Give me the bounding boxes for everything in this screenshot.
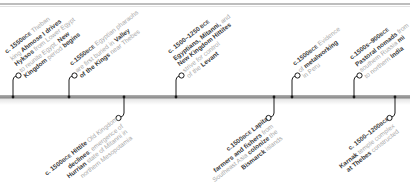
- event-connector: [122, 97, 142, 127]
- event-label: c. 1500–1250 BCEEgyptians, Mitanni, andN…: [166, 5, 246, 79]
- event-label: c. 1500BCE Hittite Old Kingdomdeclines; …: [43, 115, 134, 192]
- event-label: c.1500BCE Lapitafarmers and fishers from…: [201, 115, 284, 189]
- timeline-bar-shadow: [0, 99, 410, 105]
- event-label: c.1550BCE Egyptian pharaohsare first bur…: [68, 8, 150, 79]
- event-label: c.1500BCE Evidenceof metalworkingin Peru: [291, 25, 351, 80]
- event-connector: [272, 97, 292, 127]
- event-label: c. 1500–1200BCEKarnak temple complexat T…: [332, 115, 400, 176]
- event-label: c.1500s–900BCEPastoral nomads fromsouthe…: [348, 14, 410, 79]
- event-connector: [393, 97, 410, 127]
- event-label-line: are first buried in Valley: [73, 15, 145, 73]
